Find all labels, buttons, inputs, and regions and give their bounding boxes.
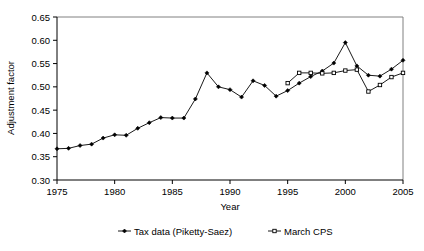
data-point-marker (332, 71, 335, 74)
plot-frame (57, 17, 403, 180)
data-point-marker (378, 83, 381, 86)
data-point-marker (55, 147, 59, 151)
line-chart-plot: 1975198019851990199520002005 0.300.350.4… (0, 0, 424, 251)
data-point-marker (67, 146, 71, 150)
x-axis-title: Year (220, 201, 239, 212)
data-point-marker (170, 116, 174, 120)
chart-figure: 1975198019851990199520002005 0.300.350.4… (0, 0, 424, 251)
legend-item-1: Tax data (Piketty-Saez) (118, 226, 232, 237)
data-point-marker (390, 75, 393, 78)
data-point-marker (182, 116, 186, 120)
data-point-marker (355, 68, 358, 71)
y-axis-title: Adjustment factor (5, 61, 16, 135)
data-point-marker (378, 74, 382, 78)
y-tick-label: 0.45 (32, 105, 51, 116)
data-point-marker (367, 90, 370, 93)
data-point-marker (401, 71, 404, 74)
x-tick-label: 1990 (219, 186, 240, 197)
data-point-marker (124, 133, 128, 137)
data-point-marker (78, 144, 82, 148)
y-tick-label: 0.60 (32, 35, 51, 46)
x-tick-label: 2005 (392, 186, 413, 197)
x-tick-label: 2000 (335, 186, 356, 197)
chart-legend: Tax data (Piketty-Saez)March CPS (118, 226, 333, 237)
legend-item-label: Tax data (Piketty-Saez) (134, 226, 232, 237)
y-tick-label: 0.30 (32, 175, 51, 186)
x-axis-ticks: 1975198019851990199520002005 (46, 180, 413, 197)
x-tick-label: 1975 (46, 186, 67, 197)
x-tick-label: 1995 (277, 186, 298, 197)
y-tick-label: 0.40 (32, 128, 51, 139)
data-series-group (55, 41, 405, 151)
data-point-marker (147, 121, 151, 125)
y-tick-label: 0.55 (32, 58, 51, 69)
plot-frame-top-right (57, 17, 403, 180)
y-axis-ticks: 0.300.350.400.450.500.550.600.65 (32, 12, 58, 186)
data-point-marker (101, 136, 105, 140)
data-point-marker (136, 126, 140, 130)
data-point-marker (298, 71, 301, 74)
legend-item-label: March CPS (284, 226, 333, 237)
data-point-marker (344, 69, 347, 72)
legend-marker-icon (273, 229, 276, 232)
y-tick-label: 0.65 (32, 12, 51, 23)
data-point-marker (309, 71, 312, 74)
data-point-marker (343, 41, 347, 45)
series-1 (55, 41, 405, 151)
data-point-marker (321, 72, 324, 75)
data-point-marker (113, 133, 117, 137)
y-tick-label: 0.50 (32, 81, 51, 92)
data-point-marker (193, 97, 197, 101)
data-point-marker (309, 75, 313, 79)
data-point-marker (286, 81, 289, 84)
y-tick-label: 0.35 (32, 151, 51, 162)
x-tick-label: 1985 (162, 186, 183, 197)
legend-marker-icon (123, 229, 127, 233)
data-point-marker (159, 116, 163, 120)
data-point-marker (90, 142, 94, 146)
x-tick-label: 1980 (104, 186, 125, 197)
plot-axis-left-bottom (57, 17, 403, 180)
series-line-path (57, 43, 403, 149)
legend-item-2: March CPS (268, 226, 333, 237)
